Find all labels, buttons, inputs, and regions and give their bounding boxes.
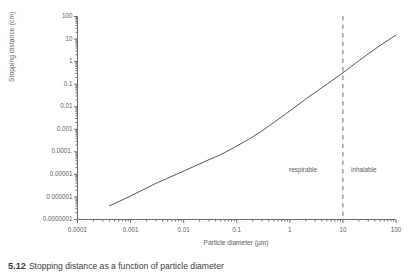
- y-tick-label: 0.001: [57, 126, 73, 132]
- chart-canvas: [0, 0, 414, 248]
- y-axis-ticks: [74, 17, 78, 220]
- x-tick-label: 1: [270, 227, 310, 233]
- figure-container: 1001010.10.010.0010.0001.0.000010.000001…: [0, 0, 414, 272]
- data-series-line: [109, 35, 396, 206]
- y-tick-label: 0.00001: [50, 171, 73, 177]
- y-tick-label: 10: [65, 36, 72, 42]
- y-tick-label: 0.01: [60, 103, 72, 109]
- x-axis-ticks: [78, 220, 397, 224]
- x-axis-title: Particle diameter (µm): [77, 239, 395, 246]
- inhalable-region-label: inhalable: [351, 166, 377, 173]
- chart-plot-area: 1001010.10.010.0010.0001.0.000010.000001…: [0, 0, 414, 248]
- x-tick-label: 0.001: [111, 227, 151, 233]
- x-tick-label: 0.1: [217, 227, 257, 233]
- y-tick-label: 100: [62, 13, 73, 19]
- axes-group: [78, 17, 397, 220]
- figure-caption: 5.12Stopping distance as a function of p…: [8, 261, 408, 271]
- y-tick-label: 0.0000001: [43, 216, 73, 222]
- x-tick-label: 100: [376, 227, 414, 233]
- y-tick-label: 1: [69, 58, 73, 64]
- y-axis-title: Stopping distance (cm): [8, 0, 15, 82]
- y-tick-label: 0.1: [64, 81, 73, 87]
- respirable-region-label: respirable: [289, 166, 317, 173]
- x-tick-label: 0.01: [164, 227, 204, 233]
- y-tick-label: 0.0001.: [51, 148, 72, 154]
- caption-number: 5.12: [8, 261, 26, 271]
- x-tick-label: 0.0001: [58, 227, 98, 233]
- caption-text: Stopping distance as a function of parti…: [29, 261, 224, 271]
- y-tick-label: 0.000001: [46, 194, 72, 200]
- x-tick-label: 10: [323, 227, 363, 233]
